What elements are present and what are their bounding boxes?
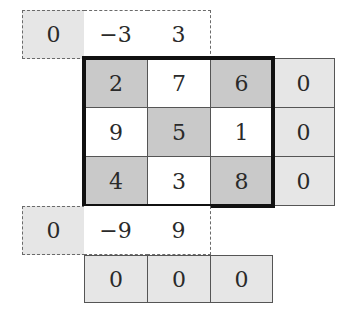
top-row-cell-0: 0 xyxy=(22,10,85,59)
main-cell-r0-c0: 2 xyxy=(84,58,148,108)
right-column-cell-1: 0 xyxy=(272,107,335,157)
lower-row-cell-2: 9 xyxy=(147,206,211,255)
right-column-cell-2: 0 xyxy=(272,156,335,206)
lower-row-cell-0: 0 xyxy=(22,206,85,255)
top-row-cell-1: −3 xyxy=(84,10,148,59)
right-column-cell-0: 0 xyxy=(272,58,335,108)
main-cell-r1-c2: 1 xyxy=(210,107,273,157)
main-cell-r2-c2: 8 xyxy=(210,156,273,206)
main-cell-r2-c1: 3 xyxy=(147,156,211,206)
top-row-cell-2: 3 xyxy=(147,10,211,59)
bottom-row-cell-2: 0 xyxy=(210,255,273,303)
bottom-row-cell-0: 0 xyxy=(84,255,148,303)
lower-row-cell-1: −9 xyxy=(84,206,148,255)
main-cell-r2-c0: 4 xyxy=(84,156,148,206)
main-cell-r0-c2: 6 xyxy=(210,58,273,108)
main-cell-r1-c0: 9 xyxy=(84,107,148,157)
main-cell-r0-c1: 7 xyxy=(147,58,211,108)
bottom-row-cell-1: 0 xyxy=(147,255,211,303)
main-cell-r1-c1: 5 xyxy=(147,107,211,157)
